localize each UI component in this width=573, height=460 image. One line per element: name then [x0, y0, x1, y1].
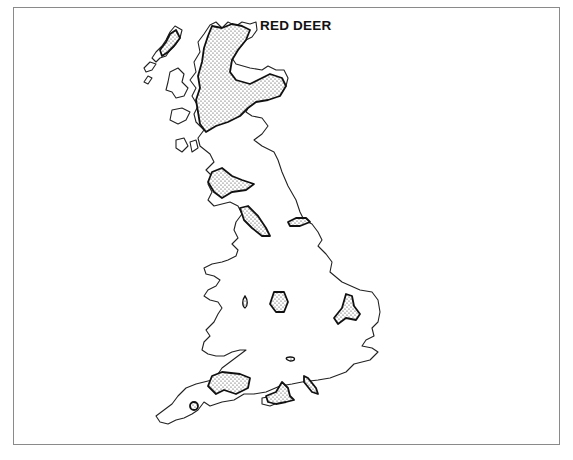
range-surrey — [304, 376, 318, 394]
range-thetford — [334, 294, 360, 324]
range-bodmin — [190, 402, 198, 410]
range-isles-stipple — [160, 30, 180, 56]
coastline-mull — [170, 108, 190, 124]
coastline-island — [144, 76, 152, 84]
coastline-islay — [176, 138, 188, 152]
range-cannock — [270, 292, 288, 312]
range-chilterns — [286, 357, 294, 361]
coastline-arran — [190, 140, 198, 152]
range-galloway — [208, 168, 254, 198]
range-exmoor — [208, 372, 250, 394]
range-highlands — [196, 24, 286, 132]
range-north-york-moors — [288, 218, 310, 226]
great-britain-map — [0, 0, 573, 460]
range-new-forest — [266, 382, 294, 404]
coastline-skye — [166, 68, 188, 98]
range-lake-district — [240, 206, 270, 236]
range-shropshire — [243, 296, 248, 308]
coastline-island — [144, 62, 156, 72]
